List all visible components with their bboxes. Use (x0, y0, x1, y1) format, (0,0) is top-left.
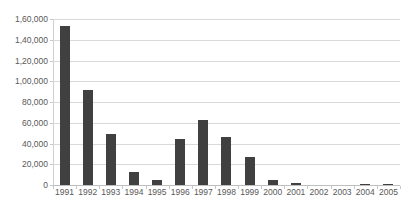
bar (175, 139, 185, 185)
bar-slot (331, 19, 354, 185)
bar (152, 180, 162, 185)
x-axis-tick-label: 2000 (261, 188, 284, 197)
x-axis-tick (238, 186, 239, 189)
bar (221, 137, 231, 185)
bar (60, 26, 70, 185)
bar (383, 184, 393, 185)
y-axis-tick-label: 1,00,000 (0, 77, 48, 86)
y-axis-tick (50, 40, 53, 41)
bar (291, 183, 301, 185)
y-axis-tick-label: 1,60,000 (0, 15, 48, 24)
bar-slot (261, 19, 284, 185)
x-axis-tick-label: 1993 (99, 188, 122, 197)
bar-slot (354, 19, 377, 185)
x-axis-tick (192, 186, 193, 189)
y-axis-tick-label: 60,000 (0, 119, 48, 128)
x-axis-tick-label: 2003 (331, 188, 354, 197)
bar (83, 90, 93, 185)
bar-slot (307, 19, 330, 185)
x-axis-tick (76, 186, 77, 189)
y-axis-tick-label: 20,000 (0, 160, 48, 169)
y-axis-labels: 020,00040,00060,00080,0001,00,0001,20,00… (0, 0, 48, 215)
x-axis-tick-label: 2004 (354, 188, 377, 197)
bar-slot (377, 19, 400, 185)
x-axis-tick-label: 1997 (192, 188, 215, 197)
y-axis-tick-label: 80,000 (0, 98, 48, 107)
x-axis-tick (261, 186, 262, 189)
x-axis-tick (331, 186, 332, 189)
x-axis-tick-label: 1991 (53, 188, 76, 197)
x-axis-tick-label: 1992 (76, 188, 99, 197)
bar (245, 157, 255, 185)
bar-slot (169, 19, 192, 185)
bar (106, 134, 116, 185)
y-axis-tick (50, 144, 53, 145)
x-axis-tick-label: 1998 (215, 188, 238, 197)
y-axis-tick (50, 102, 53, 103)
gridline (53, 185, 400, 186)
bar-slot (53, 19, 76, 185)
y-axis-tick (50, 19, 53, 20)
bar-slot (238, 19, 261, 185)
x-axis-tick (53, 186, 54, 189)
bar-slot (215, 19, 238, 185)
x-axis-tick-label: 2001 (284, 188, 307, 197)
x-axis-tick-label: 1999 (238, 188, 261, 197)
y-axis-tick-label: 1,40,000 (0, 36, 48, 45)
y-axis-tick (50, 61, 53, 62)
x-axis-tick-label: 1995 (146, 188, 169, 197)
bar (268, 180, 278, 185)
bar-slot (99, 19, 122, 185)
bar-chart: 020,00040,00060,00080,0001,00,0001,20,00… (0, 0, 414, 215)
bar-series (53, 19, 400, 185)
y-axis-tick (50, 164, 53, 165)
y-axis-tick-label: 1,20,000 (0, 56, 48, 65)
x-axis-tick-label: 2002 (307, 188, 330, 197)
bar (360, 184, 370, 185)
plot-area (53, 19, 400, 185)
bar-slot (192, 19, 215, 185)
bar-slot (76, 19, 99, 185)
x-axis-tick (215, 186, 216, 189)
x-axis-tick-label: 1994 (122, 188, 145, 197)
x-axis-tick (284, 186, 285, 189)
y-axis-tick-label: 40,000 (0, 139, 48, 148)
x-axis-tick (400, 186, 401, 189)
x-axis-tick-label: 1996 (169, 188, 192, 197)
x-axis-tick (307, 186, 308, 189)
y-axis-tick-label: 0 (0, 181, 48, 190)
y-axis-tick (50, 81, 53, 82)
bar (129, 172, 139, 185)
x-axis-tick (99, 186, 100, 189)
x-axis-tick (146, 186, 147, 189)
bar-slot (122, 19, 145, 185)
bar (198, 120, 208, 185)
x-axis-labels: 1991199219931994199519961997199819992000… (53, 188, 400, 208)
x-axis-tick (169, 186, 170, 189)
x-axis-tick-label: 2005 (377, 188, 400, 197)
bar-slot (146, 19, 169, 185)
x-axis-tick (377, 186, 378, 189)
x-axis-tick (354, 186, 355, 189)
bar-slot (284, 19, 307, 185)
y-axis-tick (50, 123, 53, 124)
x-axis-tick (122, 186, 123, 189)
